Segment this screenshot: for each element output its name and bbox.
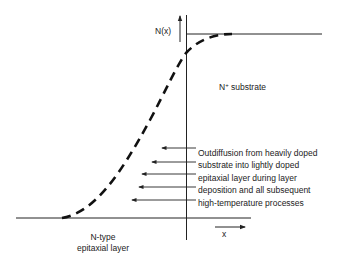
epitaxial-layer-label: N-type epitaxial layer [68,232,138,254]
annotation-line: epitaxial layer during layer [198,172,317,184]
annotation-line: deposition and all subsequent [198,184,317,196]
annotation-line: high-temperature processes [198,197,317,209]
epi-label-line1: N-type [68,232,138,243]
epi-label-line2: epitaxial layer [68,243,138,254]
substrate-label: N+ substrate [219,80,266,93]
substrate-label-rest: substrate [229,82,266,92]
annotation-line: substrate into lightly doped [198,159,317,171]
annotation-line: Outdiffusion from heavily doped [198,147,317,159]
diffusion-profile-diagram [0,0,348,264]
x-axis-label: x [222,229,226,240]
y-axis-label: N(x) [155,26,171,37]
outdiffusion-annotation: Outdiffusion from heavily doped substrat… [198,147,317,209]
